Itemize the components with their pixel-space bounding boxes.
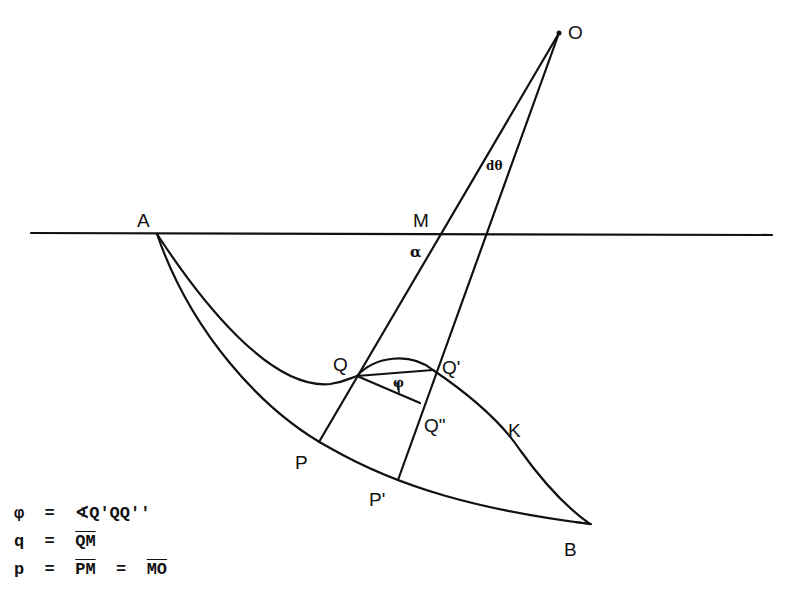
angle-alpha: α: [410, 243, 422, 261]
horizontal-line: [31, 233, 772, 235]
legend-q-row: q = QM: [14, 528, 167, 556]
equals: =: [45, 560, 55, 579]
q-definition: QM: [75, 532, 95, 551]
phi-definition: ∢Q'QQ'': [75, 504, 150, 523]
label-k: K: [508, 420, 521, 441]
segment-q-q-double-prime: [357, 376, 420, 403]
symbol-q: q: [14, 532, 24, 551]
label-q-double-prime: Q": [424, 415, 446, 436]
equals: =: [45, 532, 55, 551]
curve-k: [157, 234, 590, 524]
angle-phi: φ: [393, 376, 404, 390]
symbol-p: p: [14, 560, 24, 579]
label-o: O: [568, 22, 583, 43]
label-b: B: [564, 539, 577, 560]
label-m: M: [413, 210, 429, 231]
legend-p-row: p = PM = MO: [14, 556, 167, 584]
equals: =: [116, 560, 126, 579]
curve-a-b-outer: [157, 234, 590, 524]
label-q: Q: [333, 354, 348, 375]
point-o: [557, 31, 562, 36]
legend: φ = ∢Q'QQ'' q = QM p = PM = MO: [14, 500, 167, 584]
ray-o-p-prime: [398, 33, 559, 480]
label-q-prime: Q': [442, 357, 460, 378]
p-definition-mo: MO: [147, 560, 167, 579]
symbol-phi: φ: [14, 504, 24, 523]
ray-o-p: [319, 33, 559, 442]
p-definition-pm: PM: [75, 560, 95, 579]
angle-dtheta: dθ: [486, 159, 502, 173]
label-a: A: [137, 210, 150, 231]
equals: =: [45, 504, 55, 523]
label-p: P: [295, 452, 308, 473]
legend-phi-row: φ = ∢Q'QQ'': [14, 500, 167, 528]
label-p-prime: P': [369, 489, 385, 510]
